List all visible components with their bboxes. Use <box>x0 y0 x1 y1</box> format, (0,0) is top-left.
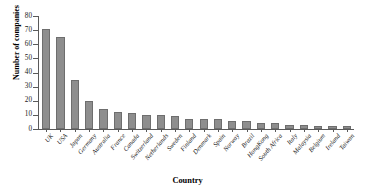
x-tick-label: UK <box>43 132 54 144</box>
x-tick-mark <box>290 129 291 132</box>
x-tick-mark <box>333 129 334 132</box>
bar <box>185 119 193 129</box>
bar <box>56 37 64 129</box>
bar <box>71 80 79 129</box>
bar <box>228 121 236 129</box>
y-tick-mark <box>33 44 38 45</box>
y-tick-mark <box>33 16 38 17</box>
bar-chart-figure: 01020304050607080 UKUSAJapanGermanyAustr… <box>0 0 375 193</box>
y-tick-mark <box>33 129 38 130</box>
x-tick-mark <box>247 129 248 132</box>
bar <box>85 101 93 129</box>
x-tick-mark <box>261 129 262 132</box>
bar <box>214 119 222 129</box>
x-tick-mark <box>347 129 348 132</box>
y-tick-label: 0 <box>0 126 32 133</box>
x-tick-mark <box>175 129 176 132</box>
x-tick-mark <box>46 129 47 132</box>
bar <box>99 109 107 129</box>
x-tick-label: Ireland <box>323 132 341 151</box>
x-axis-line <box>38 129 354 130</box>
y-tick-mark <box>33 101 38 102</box>
x-tick-mark <box>318 129 319 132</box>
x-tick-mark <box>204 129 205 132</box>
y-axis-title: Number of companies <box>12 0 21 91</box>
y-tick-mark <box>33 87 38 88</box>
bar <box>114 112 122 129</box>
y-tick-label: 10 <box>0 111 32 118</box>
x-tick-mark <box>75 129 76 132</box>
bars-group <box>39 16 354 129</box>
x-tick-mark <box>118 129 119 132</box>
y-tick-label: 20 <box>0 97 32 104</box>
y-tick-mark <box>33 58 38 59</box>
x-tick-mark <box>304 129 305 132</box>
x-tick-mark <box>60 129 61 132</box>
bar <box>42 29 50 129</box>
bar <box>200 119 208 129</box>
bar <box>171 116 179 129</box>
x-tick-mark <box>189 129 190 132</box>
x-tick-mark <box>161 129 162 132</box>
x-tick-mark <box>146 129 147 132</box>
x-tick-mark <box>89 129 90 132</box>
x-tick-mark <box>218 129 219 132</box>
x-tick-mark <box>275 129 276 132</box>
x-tick-mark <box>132 129 133 132</box>
bar <box>142 115 150 129</box>
bar <box>242 121 250 129</box>
y-tick-mark <box>33 73 38 74</box>
y-tick-mark <box>33 115 38 116</box>
y-tick-mark <box>33 30 38 31</box>
x-tick-mark <box>232 129 233 132</box>
x-tick-mark <box>103 129 104 132</box>
bar <box>128 113 136 129</box>
x-axis-title: Country <box>0 176 375 185</box>
bar <box>157 115 165 129</box>
